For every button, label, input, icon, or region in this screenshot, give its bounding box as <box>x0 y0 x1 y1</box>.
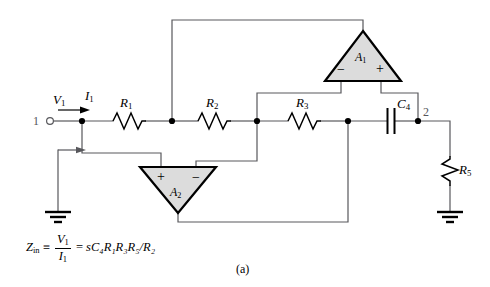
terminal-1-label: 1 <box>33 115 39 127</box>
node-dot-r3-c4 <box>345 118 351 124</box>
resistor-r5-symbol <box>442 156 458 186</box>
capacitor-c4-label: C4 <box>397 97 410 112</box>
input-impedance-equation: Zin ≡ V1 I1 = sC₄R₁R₃R₅/R₂ <box>26 232 155 264</box>
wire-node-c-to-a2-minus <box>196 121 257 168</box>
wire-group <box>52 20 450 222</box>
eq-fraction-numerator: V1 <box>55 232 71 249</box>
node-dot-input <box>79 118 85 124</box>
figure-caption: (a) <box>236 262 249 277</box>
resistor-r5-label: R5 <box>459 163 471 178</box>
opamp-a1-minus-input[interactable]: − <box>337 63 345 77</box>
voltage-v1-label: V1 <box>53 93 65 108</box>
wire-node2-to-r5 <box>418 121 450 156</box>
resistor-r3-label: R3 <box>296 96 308 111</box>
opamp-a2-label: A2 <box>170 186 181 200</box>
terminal-2-label: 2 <box>423 106 429 118</box>
opamp-a1-plus-input[interactable]: + <box>376 62 384 76</box>
capacitor-c4-symbol <box>388 108 395 134</box>
circuit-figure: 1 2 V1 I1 R1 R2 R3 C4 R5 A1 − + A2 + − Z… <box>0 0 490 287</box>
resistor-r2-symbol <box>198 113 231 129</box>
resistor-r1-label: R1 <box>120 96 132 111</box>
resistor-r3-symbol <box>288 113 321 129</box>
resistor-r1-symbol <box>113 113 146 129</box>
eq-zin-symbol: Zin <box>26 240 40 254</box>
opamp-a2-plus-input[interactable]: + <box>157 170 165 184</box>
resistor-r2-label: R2 <box>206 96 218 111</box>
eq-fraction-denominator: I1 <box>55 249 71 265</box>
ground-symbol-right <box>437 212 463 222</box>
eq-equals: = <box>76 240 83 254</box>
opamp-a1-label: A1 <box>355 51 366 65</box>
ground-symbol-left <box>45 212 71 222</box>
eq-identity: ≡ <box>43 240 50 254</box>
terminal-1-circle[interactable] <box>47 118 54 125</box>
node-dot-node2 <box>415 118 421 124</box>
wire-input-node-to-a2-plus <box>82 121 161 168</box>
eq-rhs: sC₄R₁R₃R₅/R₂ <box>86 240 155 254</box>
opamp-a2-minus-input[interactable]: − <box>192 171 200 185</box>
current-i1-label: I1 <box>85 89 94 104</box>
node-dot-r2-r3 <box>254 118 260 124</box>
node-dot-r1-r2 <box>169 118 175 124</box>
eq-fraction: V1 I1 <box>55 232 71 264</box>
